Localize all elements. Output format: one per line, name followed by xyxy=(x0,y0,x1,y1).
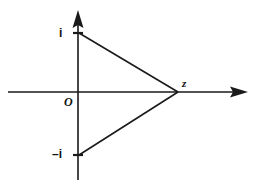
segment-i-to-z xyxy=(79,33,178,92)
label-origin: O xyxy=(64,96,73,108)
label-imaginary-unit: i xyxy=(59,27,62,39)
label-point-z: z xyxy=(182,78,186,89)
label-negative-imaginary-unit: –i xyxy=(52,148,62,160)
argand-diagram-figure: i –i O z xyxy=(0,0,256,184)
complex-plane-drawing xyxy=(0,0,256,184)
segment-negative-i-to-z xyxy=(79,92,178,155)
